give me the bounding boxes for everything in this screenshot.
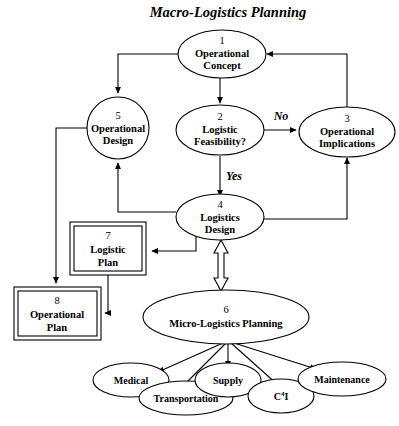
node-4-logistics-design[interactable]: 4 Logistics Design (176, 194, 264, 240)
node-7-line1: Logistic (90, 244, 126, 255)
node-7-number: 7 (105, 230, 110, 241)
leaf-maintenance-label: Maintenance (314, 374, 370, 385)
node-4-line1: Logistics (200, 212, 240, 223)
node-5-line1: Operational (91, 123, 145, 134)
node-7-line2: Plan (98, 257, 119, 268)
edge-label-no: No (273, 109, 289, 123)
node-8-number: 8 (54, 295, 59, 306)
node-1-line1: Operational (195, 48, 249, 59)
node-3-number: 3 (344, 113, 349, 124)
leaf-supply-label: Supply (213, 375, 243, 386)
flowchart-canvas: Macro-Logistics Planning (0, 0, 399, 426)
leaf-node-maintenance[interactable]: Maintenance (298, 362, 386, 396)
node-5-operational-design[interactable]: 5 Operational Design (87, 97, 149, 159)
node-8-line2: Plan (47, 322, 68, 333)
node-8-operational-plan[interactable]: 8 Operational Plan (14, 287, 101, 340)
node-5-line2: Design (103, 135, 133, 146)
node-1-line2: Concept (203, 60, 241, 71)
node-3-operational-implications[interactable]: 3 Operational Implications (299, 107, 395, 157)
node-1-number: 1 (219, 35, 224, 46)
leaf-c4i-label-tail: I (284, 391, 288, 402)
double-arrow-4-6 (214, 240, 228, 291)
node-6-number: 6 (223, 304, 228, 315)
node-1-operational-concept[interactable]: 1 Operational Concept (178, 30, 266, 78)
leaf-medical-label: Medical (114, 375, 149, 386)
edge-4-to-5 (118, 163, 176, 212)
edge-label-yes: Yes (226, 169, 242, 183)
edge-1-to-5 (118, 54, 178, 93)
node-2-number: 2 (217, 111, 222, 122)
leaf-c4i-label-head: C (274, 391, 281, 402)
node-8-line1: Operational (30, 309, 84, 320)
node-3-line2: Implications (319, 138, 375, 149)
node-2-line2: Feasibility? (194, 136, 246, 147)
node-7-logistic-plan[interactable]: 7 Logistic Plan (70, 222, 146, 275)
node-6-shape (143, 290, 309, 344)
node-2-logistic-feasibility[interactable]: 2 Logistic Feasibility? (176, 105, 264, 155)
node-2-line1: Logistic (202, 124, 238, 135)
edge-3-to-1 (267, 54, 347, 107)
edge-4-to-7 (152, 236, 196, 251)
edge-7-to-8 (105, 275, 108, 313)
leaf-transportation-label: Transportation (154, 393, 219, 404)
diagram-title: Macro-Logistics Planning (149, 4, 307, 20)
macro-logistics-planning-diagram: Macro-Logistics Planning (0, 0, 399, 426)
node-4-number: 4 (217, 199, 223, 210)
node-6-micro-logistics-planning[interactable]: 6 Micro-Logistics Planning (143, 290, 309, 344)
node-5-number: 5 (115, 110, 120, 121)
node-6-line1: Micro-Logistics Planning (169, 318, 283, 329)
node-3-line1: Operational (320, 126, 374, 137)
edge-4-to-3 (264, 158, 347, 219)
node-4-line2: Design (205, 224, 235, 235)
